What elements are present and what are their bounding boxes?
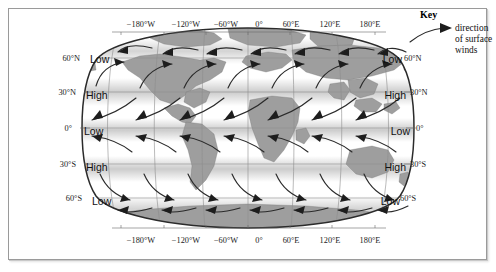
svg-text:30°N: 30°N bbox=[58, 88, 76, 97]
svg-text:30°N: 30°N bbox=[410, 88, 428, 97]
svg-text:−120°W: −120°W bbox=[172, 236, 200, 245]
world-wind-map: −180°W −120°W −60°W 0° 60°E 120°E 180°E … bbox=[0, 0, 496, 272]
svg-text:60°N: 60°N bbox=[404, 54, 422, 63]
svg-text:0°: 0° bbox=[255, 20, 262, 29]
svg-text:60°E: 60°E bbox=[283, 236, 300, 245]
figure-stage: −180°W −120°W −60°W 0° 60°E 120°E 180°E … bbox=[0, 0, 496, 272]
svg-text:60°E: 60°E bbox=[283, 20, 300, 29]
pressure-label: Low bbox=[84, 125, 104, 137]
svg-text:120°E: 120°E bbox=[320, 20, 341, 29]
key-line-2: of surface bbox=[455, 34, 492, 44]
svg-text:−60°W: −60°W bbox=[214, 20, 238, 29]
longitude-labels-bottom: −180°W −120°W −60°W 0° 60°E 120°E 180°E bbox=[127, 236, 381, 245]
svg-text:120°E: 120°E bbox=[320, 236, 341, 245]
svg-text:180°E: 180°E bbox=[360, 236, 381, 245]
svg-text:0°: 0° bbox=[416, 124, 423, 133]
pressure-label: Low bbox=[90, 53, 110, 65]
svg-text:60°S: 60°S bbox=[66, 194, 83, 203]
svg-text:−180°W: −180°W bbox=[127, 20, 155, 29]
pressure-label: High bbox=[86, 161, 108, 173]
svg-text:60°N: 60°N bbox=[62, 54, 80, 63]
svg-text:0°: 0° bbox=[255, 236, 262, 245]
svg-text:−180°W: −180°W bbox=[127, 236, 155, 245]
pressure-label: High bbox=[86, 89, 108, 101]
pressure-label: Low bbox=[391, 125, 411, 137]
pressure-label: Low bbox=[92, 195, 112, 207]
pressure-label: High bbox=[384, 89, 406, 101]
key-title: Key bbox=[420, 9, 437, 20]
pressure-label: High bbox=[384, 161, 406, 173]
svg-text:30°S: 30°S bbox=[60, 160, 77, 169]
pressure-label: Low bbox=[381, 195, 401, 207]
svg-text:180°E: 180°E bbox=[360, 20, 381, 29]
latitude-labels-left: 60°N 30°N 0° 30°S 60°S bbox=[58, 54, 82, 203]
svg-text:60°S: 60°S bbox=[400, 194, 417, 203]
key-legend: Key direction of surface winds bbox=[410, 9, 492, 55]
svg-text:−120°W: −120°W bbox=[172, 20, 200, 29]
key-line-1: direction bbox=[455, 23, 489, 33]
svg-text:0°: 0° bbox=[65, 124, 72, 133]
svg-text:−60°W: −60°W bbox=[214, 236, 238, 245]
key-line-3: winds bbox=[455, 45, 478, 55]
svg-text:30°S: 30°S bbox=[410, 160, 427, 169]
curved-arrow-icon bbox=[410, 23, 452, 42]
pressure-label: Low bbox=[383, 53, 403, 65]
